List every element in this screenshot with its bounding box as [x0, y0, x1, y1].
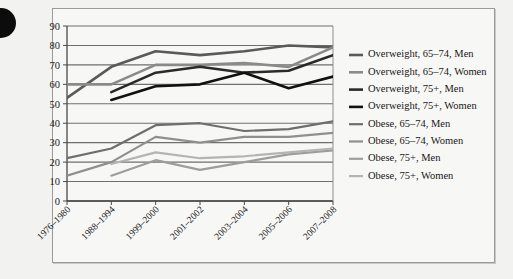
legend-label-7: Obese, 75+, Women	[368, 170, 454, 181]
y-axis-tick-label: 90	[50, 21, 61, 32]
chart-figure: 01020304050607080901976–19801988–1994199…	[0, 0, 513, 279]
y-axis-tick-label: 20	[50, 157, 61, 168]
y-axis-tick-label: 40	[50, 118, 61, 129]
legend-label-5: Obese, 65–74, Women	[368, 135, 464, 146]
y-axis-tick-label: 0	[55, 196, 60, 207]
x-axis-tick-label: 1976–1980	[35, 204, 72, 241]
legend-label-2: Overweight, 75+, Men	[368, 83, 464, 94]
x-axis-tick-label: 2007–2008	[301, 204, 338, 241]
legend-label-1: Overweight, 65–74, Women	[368, 66, 487, 77]
x-axis-tick-label: 1999–2000	[124, 204, 161, 241]
x-axis-tick-label: 2001–2002	[168, 204, 205, 241]
series-line-0	[67, 45, 333, 98]
x-axis-tick-label: 2005–2006	[257, 204, 294, 241]
y-axis-tick-label: 80	[50, 40, 61, 51]
y-axis-tick-label: 10	[50, 176, 61, 187]
x-axis-tick-label: 2003–2004	[212, 204, 249, 241]
y-axis-tick-label: 50	[50, 99, 61, 110]
y-axis-tick-label: 60	[50, 79, 61, 90]
legend-label-3: Overweight, 75+, Women	[368, 100, 477, 111]
y-axis-tick-label: 30	[50, 137, 61, 148]
legend-label-4: Obese, 65–74, Men	[368, 118, 451, 129]
x-axis-tick-label: 1988–1994	[79, 204, 116, 241]
legend-label-6: Obese, 75+, Men	[368, 152, 441, 163]
y-axis-tick-label: 70	[50, 60, 61, 71]
legend-label-0: Overweight, 65–74, Men	[368, 48, 474, 59]
